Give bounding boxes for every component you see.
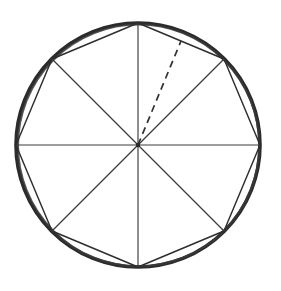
figure-canvas: [0, 0, 281, 291]
center-point: [136, 143, 140, 147]
geometry-figure: [0, 0, 281, 291]
